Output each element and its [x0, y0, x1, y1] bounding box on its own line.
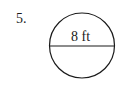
circle-figure: 8 ft: [0, 0, 121, 91]
diameter-label: 8 ft: [71, 29, 90, 44]
